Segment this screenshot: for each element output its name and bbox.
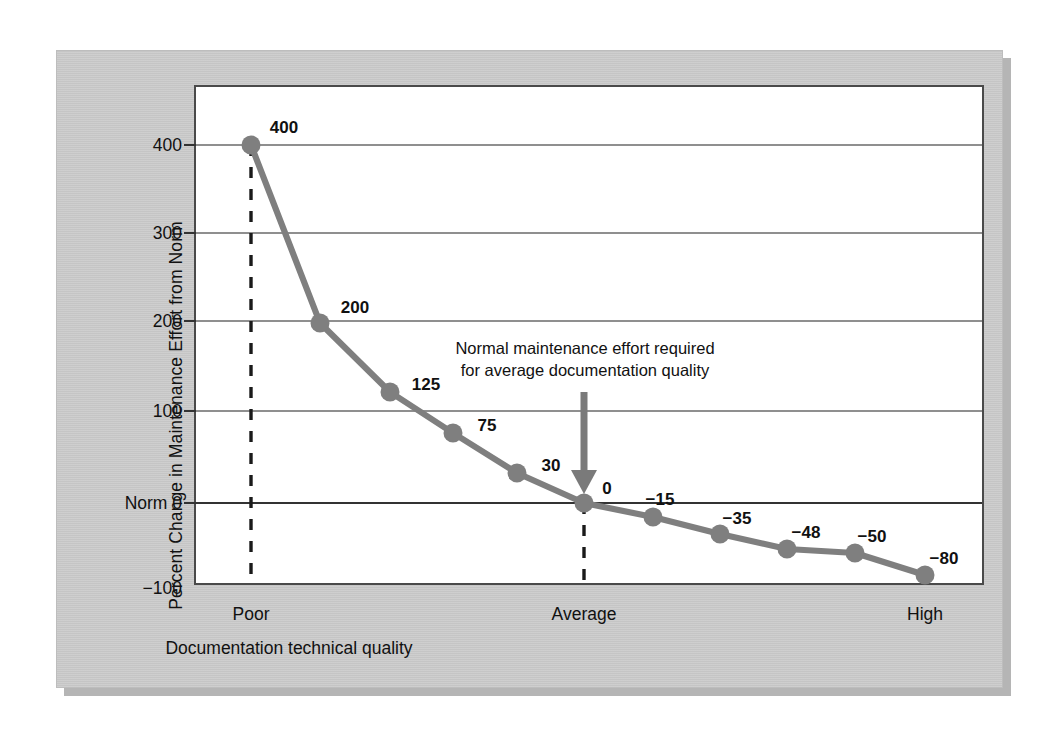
data-point-125 — [381, 383, 400, 402]
data-point-200 — [311, 314, 330, 333]
data-point-400 — [242, 136, 261, 155]
gridlines — [196, 145, 982, 411]
data-label-minus-48: −48 — [792, 523, 821, 543]
arrow-shaft — [581, 392, 588, 476]
data-label-30: 30 — [542, 456, 561, 476]
data-point-minus-15 — [644, 508, 663, 527]
data-label-minus-50: −50 — [858, 527, 887, 547]
data-label-minus-15: −15 — [646, 490, 675, 510]
data-label-0: 0 — [602, 479, 611, 499]
y-axis-ticks — [184, 145, 196, 503]
data-label-400: 400 — [270, 118, 298, 138]
data-label-minus-35: −35 — [723, 509, 752, 529]
data-point-30 — [508, 464, 527, 483]
data-label-75: 75 — [478, 416, 497, 436]
arrow-head — [571, 470, 597, 494]
data-point-0 — [575, 494, 594, 513]
figure-container: Percent Change in Maintenance Effort fro… — [0, 0, 1051, 732]
chart-vector-layer — [0, 0, 1051, 732]
data-label-minus-80: −80 — [930, 549, 959, 569]
norm-callout-arrow-icon — [571, 392, 597, 494]
series-markers — [242, 136, 935, 585]
data-point-75 — [444, 424, 463, 443]
data-label-200: 200 — [341, 298, 369, 318]
data-label-125: 125 — [412, 375, 440, 395]
